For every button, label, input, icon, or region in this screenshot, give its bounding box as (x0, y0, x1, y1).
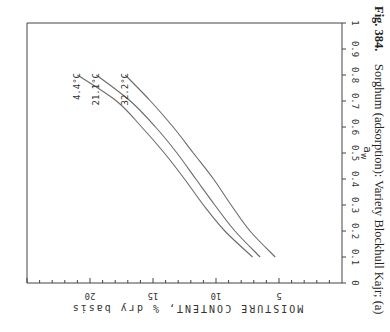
curve-label: 21.1°C (91, 73, 101, 106)
isotherm-curve (125, 75, 275, 257)
figure-caption-text: Sorghum (adsorption): Variety Blockhull … (372, 64, 386, 315)
plot-frame (27, 23, 342, 283)
aw-tick-label: 0.9 (350, 41, 360, 57)
aw-tick-label: 0 (350, 280, 360, 285)
sorption-isotherm-chart: 00.10.20.30.40.50.60.70.80.91aw 5101520M… (0, 0, 390, 332)
curve-label: 32.2°C (120, 73, 130, 106)
aw-tick-label: 0.8 (350, 67, 360, 83)
curve-label: 4.4°C (72, 73, 82, 100)
aw-tick-label: 0.5 (350, 145, 360, 161)
moisture-axis: 5101520MOISTURE CONTENT, % dry basis (27, 278, 342, 314)
aw-tick-label: 0.7 (350, 93, 360, 109)
figure-number: Fig. 384. (372, 6, 386, 51)
curve-labels: 4.4°C21.1°C32.2°C (72, 73, 130, 106)
aw-tick-label: 1 (350, 20, 360, 25)
mc-tick-label: 15 (148, 291, 159, 301)
isotherm-curves (77, 75, 275, 257)
aw-tick-label: 0.1 (350, 249, 360, 265)
isotherm-curve (77, 75, 252, 257)
mc-tick-label: 5 (276, 291, 281, 301)
mc-tick-label: 20 (85, 291, 96, 301)
aw-tick-label: 0.2 (350, 223, 360, 239)
aw-tick-label: 0.3 (350, 197, 360, 213)
mc-axis-label: MOISTURE CONTENT, % dry basis (71, 303, 304, 314)
mc-tick-label: 10 (211, 291, 222, 301)
aw-tick-label: 0.6 (350, 119, 360, 135)
figure-caption: Fig. 384. Sorghum (adsorption): Variety … (368, 0, 388, 332)
aw-tick-label: 0.4 (350, 171, 360, 187)
